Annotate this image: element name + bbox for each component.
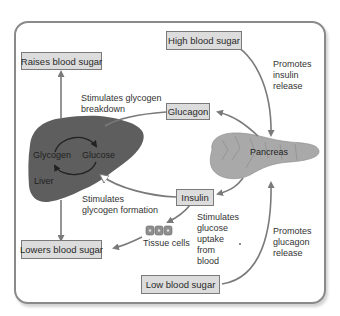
arrow-pancreas-to-insulin (218, 178, 243, 194)
arrow-insulin-to-tissue (168, 205, 190, 222)
glucose-uptake-annotation-line5: blood (197, 256, 219, 267)
glucose-uptake-annotation-line3: uptake (197, 234, 224, 245)
arrow-tissue-to-lowers (114, 237, 142, 248)
glucose-uptake-annotation-line4: from (197, 245, 215, 256)
lowers-blood-sugar-box: Lowers blood sugar (21, 240, 102, 259)
pancreas-label: Pancreas (250, 147, 288, 157)
glycogen-formation-annotation-line1: Stimulates (82, 194, 124, 205)
promotes-glucagon-annotation-line1: Promotes (273, 226, 312, 237)
promotes-insulin-annotation-line2: insulin (273, 70, 299, 81)
promotes-insulin-annotation-line1: Promotes (273, 59, 312, 70)
arrow-high-to-pancreas (222, 40, 271, 135)
glycogen-breakdown-annotation-line1: Stimulates glycogen (81, 93, 162, 104)
arrow-pancreas-to-glucagon (218, 112, 258, 136)
promotes-glucagon-annotation-line3: release (273, 248, 303, 259)
glucagon-box: Glucagon (166, 103, 210, 120)
low-blood-sugar-box: Low blood sugar (141, 275, 220, 294)
glycogen-label: Glycogen (33, 150, 71, 160)
high-blood-sugar-box: High blood sugar (166, 31, 242, 50)
glucose-label: Glucose (82, 150, 115, 160)
tissue-cells-shape (146, 226, 172, 235)
glucose-uptake-annotation-line1: Stimulates (197, 212, 239, 223)
glycogen-formation-annotation-line2: glycogen formation (82, 205, 158, 216)
insulin-box: Insulin (176, 189, 214, 206)
liver-label: Liver (34, 176, 54, 186)
tissue-cells-label: Tissue cells (143, 238, 190, 249)
promotes-glucagon-annotation-line2: glucagon (273, 237, 310, 248)
glycogen-breakdown-annotation-line2: breakdown (81, 104, 125, 115)
arrow-low-to-pancreas (222, 183, 271, 284)
promotes-insulin-annotation-line3: release (273, 81, 303, 92)
raises-blood-sugar-box: Raises blood sugar (21, 52, 102, 70)
glucose-uptake-annotation-line2: glucose (197, 223, 228, 234)
